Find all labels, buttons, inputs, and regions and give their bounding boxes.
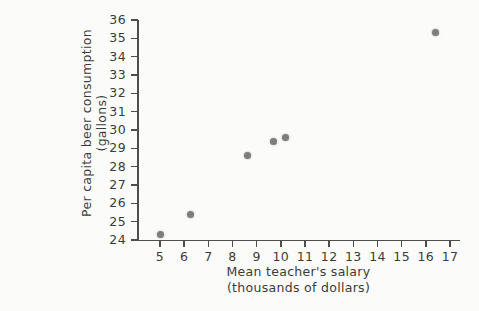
y-tick-mark — [131, 74, 138, 75]
x-tick-label: 11 — [293, 249, 317, 264]
data-point — [270, 138, 277, 145]
y-tick-mark — [131, 166, 138, 167]
scatter-plot-figure: 24252627282930313233343536 5678910111213… — [0, 0, 479, 311]
data-point — [157, 231, 164, 238]
y-axis-title-line1: Per capita beer consumption — [79, 29, 94, 217]
x-axis-title-line2: (thousands of dollars) — [137, 280, 460, 296]
x-tick-label: 16 — [414, 249, 438, 264]
y-tick-mark — [131, 148, 138, 149]
x-tick-label: 13 — [341, 249, 365, 264]
x-tick-mark — [232, 240, 233, 247]
x-tick-mark — [425, 240, 426, 247]
y-tick-mark — [131, 203, 138, 204]
y-axis-title: Per capita beer consumption (gallons) — [79, 3, 109, 243]
y-tick-mark — [131, 56, 138, 57]
x-tick-label: 15 — [390, 249, 414, 264]
x-tick-mark — [353, 240, 354, 247]
x-axis-title-line1: Mean teacher's salary — [227, 264, 371, 279]
y-axis-title-line2: (gallons) — [94, 3, 109, 243]
y-tick-mark — [131, 19, 138, 20]
x-axis-line — [137, 240, 460, 242]
y-tick-mark — [131, 129, 138, 130]
x-tick-label: 5 — [148, 249, 172, 264]
x-tick-mark — [401, 240, 402, 247]
x-tick-mark — [183, 240, 184, 247]
y-tick-mark — [131, 38, 138, 39]
x-tick-label: 7 — [196, 249, 220, 264]
x-tick-label: 8 — [221, 249, 245, 264]
data-point — [432, 29, 439, 36]
x-tick-label: 14 — [366, 249, 390, 264]
x-tick-mark — [304, 240, 305, 247]
x-tick-mark — [256, 240, 257, 247]
y-tick-mark — [131, 184, 138, 185]
x-tick-mark — [377, 240, 378, 247]
data-point — [244, 152, 251, 159]
x-tick-label: 10 — [269, 249, 293, 264]
y-tick-mark — [131, 93, 138, 94]
data-point — [187, 211, 194, 218]
x-tick-mark — [280, 240, 281, 247]
x-tick-mark — [449, 240, 450, 247]
y-tick-mark — [131, 239, 138, 240]
y-tick-mark — [131, 221, 138, 222]
x-tick-label: 17 — [438, 249, 462, 264]
x-tick-label: 9 — [245, 249, 269, 264]
x-tick-mark — [159, 240, 160, 247]
data-point — [282, 134, 289, 141]
plot-area: 24252627282930313233343536 5678910111213… — [0, 0, 479, 311]
y-tick-mark — [131, 111, 138, 112]
x-tick-mark — [208, 240, 209, 247]
x-tick-mark — [328, 240, 329, 247]
x-tick-label: 6 — [172, 249, 196, 264]
x-axis-title: Mean teacher's salary (thousands of doll… — [137, 264, 460, 296]
x-tick-label: 12 — [317, 249, 341, 264]
